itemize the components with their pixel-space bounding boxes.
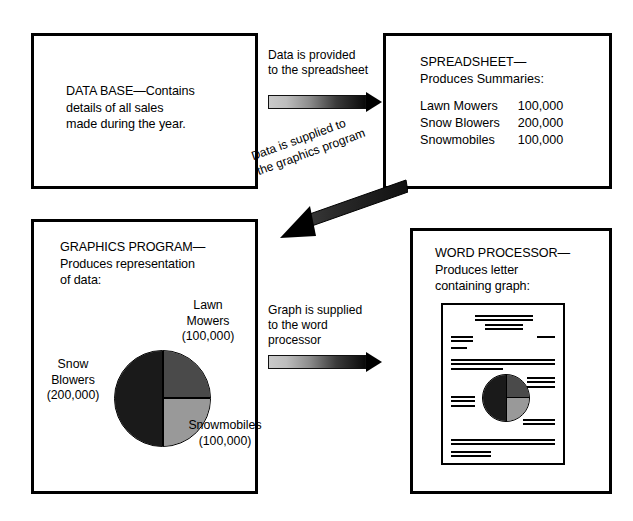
pie-divider-vertical xyxy=(162,351,164,446)
word-processor-heading: WORD PROCESSOR— Produces letter containi… xyxy=(435,245,615,295)
text-line xyxy=(485,324,523,326)
text-line xyxy=(451,359,555,361)
graphics-program-box: GRAPHICS PROGRAM— Produces representatio… xyxy=(31,219,258,494)
text-line xyxy=(451,368,503,370)
graphics-program-heading: GRAPHICS PROGRAM— Produces representatio… xyxy=(60,239,260,289)
pie-slice-lawn-mowers xyxy=(162,351,210,398)
database-box: DATA BASE—Contains details of all sales … xyxy=(31,33,258,189)
pie-divider-horizontal xyxy=(506,397,529,398)
pie-slice-snowmobiles xyxy=(506,398,529,421)
text-line xyxy=(527,377,555,379)
text-line xyxy=(451,455,491,457)
product-label: Lawn Mowers xyxy=(420,98,500,115)
text-line xyxy=(451,340,473,342)
table-row: Lawn Mowers 100,000 xyxy=(420,98,563,115)
product-label: Snowmobiles xyxy=(420,132,500,149)
pie-slice-snow-blowers xyxy=(115,351,163,446)
arrow-label-db-to-spreadsheet: Data is provided to the spreadsheet xyxy=(268,48,388,78)
arrow-shaft xyxy=(268,355,366,369)
product-value: 200,000 xyxy=(500,115,564,132)
text-line xyxy=(475,319,533,321)
text-line xyxy=(451,347,467,349)
table-row: Snow Blowers 200,000 xyxy=(420,115,563,132)
text-line xyxy=(523,419,555,421)
spreadsheet-heading: SPREADSHEET— Produces Summaries: xyxy=(420,54,544,87)
text-line xyxy=(475,315,533,317)
product-value: 100,000 xyxy=(500,98,564,115)
text-line xyxy=(451,396,475,398)
text-line xyxy=(451,443,555,445)
text-line xyxy=(537,336,555,338)
diagram-canvas: DATA BASE—Contains details of all sales … xyxy=(0,0,633,521)
arrow-spreadsheet-to-graphics: Data is supplied to the graphics program xyxy=(258,176,408,240)
pie-divider-vertical xyxy=(506,375,507,421)
product-value: 100,000 xyxy=(500,132,564,149)
pie-label-snow-blowers: Snow Blowers (200,000) xyxy=(32,357,114,404)
database-text: DATA BASE—Contains details of all sales … xyxy=(66,83,256,133)
arrow-head-icon xyxy=(366,352,382,372)
pie-slice-snow-blowers xyxy=(483,375,506,421)
pie-label-snowmobiles: Snowmobiles (100,000) xyxy=(170,418,280,449)
text-line xyxy=(451,363,555,365)
arrow-graphics-to-wordprocessor xyxy=(268,352,382,372)
text-line xyxy=(527,386,555,388)
text-line xyxy=(451,400,475,402)
pie-divider-horizontal xyxy=(162,397,210,399)
table-row: Snowmobiles 100,000 xyxy=(420,132,563,149)
text-line xyxy=(485,328,523,330)
word-processor-box: WORD PROCESSOR— Produces letter containi… xyxy=(410,228,612,494)
text-line xyxy=(451,405,475,407)
pie-slice-lawn-mowers xyxy=(506,375,529,398)
spreadsheet-summary-table: Lawn Mowers 100,000 Snow Blowers 200,000… xyxy=(420,98,563,148)
text-line xyxy=(451,451,491,453)
arrow-label-graphics-to-wordprocessor: Graph is supplied to the word processor xyxy=(268,303,376,348)
arrow-diagonal-icon xyxy=(258,176,408,240)
embedded-pie-chart xyxy=(482,374,530,422)
product-label: Snow Blowers xyxy=(420,115,500,132)
spreadsheet-box: SPREADSHEET— Produces Summaries: Lawn Mo… xyxy=(383,33,612,189)
letter-preview xyxy=(441,303,565,465)
text-line xyxy=(451,336,473,338)
text-line xyxy=(523,423,555,425)
arrow-shaft xyxy=(268,95,366,109)
text-line xyxy=(451,439,555,441)
pie-label-lawn-mowers: Lawn Mowers (100,000) xyxy=(162,298,254,345)
text-line xyxy=(527,381,555,383)
